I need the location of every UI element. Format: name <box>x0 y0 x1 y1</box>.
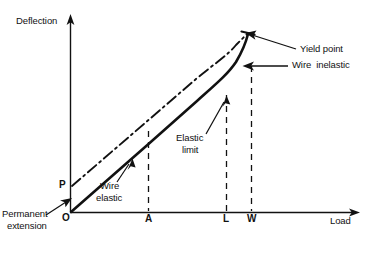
elastic-limit-arrow-icon <box>222 96 230 108</box>
annotation-wire-elastic-line2: elastic <box>96 193 122 203</box>
diagram-canvas <box>0 0 379 257</box>
annotation-elastic-limit-line1: Elastic <box>176 133 203 143</box>
loading-curve-solid <box>71 34 248 212</box>
elastic-limit-leader <box>206 102 224 134</box>
yield-point-leader <box>251 35 297 50</box>
deflection-load-diagram: Deflection Load P O A L W Yield point Wi… <box>0 0 379 257</box>
annotation-wire-inelastic: Wire inelastic <box>292 60 350 70</box>
tick-label-A: A <box>145 214 152 225</box>
annotation-yield-point: Yield point <box>300 44 343 54</box>
y-axis-label: Deflection <box>16 16 57 26</box>
annotation-wire-elastic-line1: Wire <box>100 181 119 191</box>
tick-label-W: W <box>247 214 256 225</box>
annotation-elastic-limit-line2: limit <box>182 145 198 155</box>
origin-label-O: O <box>62 213 70 224</box>
permanent-extension-curve-dashdot <box>72 34 247 186</box>
point-label-P: P <box>59 180 66 191</box>
annotation-permanent-extension-line1: Permanent <box>2 209 48 219</box>
x-axis-label: Load <box>330 216 351 226</box>
tick-label-L: L <box>223 214 229 225</box>
annotation-permanent-extension-line2: extension <box>7 221 47 231</box>
